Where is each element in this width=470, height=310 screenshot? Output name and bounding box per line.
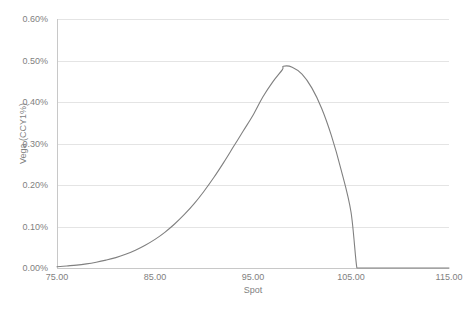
- x-tick-label: 95.00: [242, 272, 265, 283]
- x-tick-label: 105.00: [337, 272, 365, 283]
- y-tick-label: 0.00%: [22, 263, 48, 273]
- x-axis-tick-labels: 75.00 85.00 95.00 105.00 115.00: [57, 272, 449, 286]
- series-vega-line: [57, 19, 449, 268]
- vega-spot-chart: 0.00% 0.10% 0.20% 0.30% 0.40% 0.50% 0.60…: [0, 0, 470, 310]
- x-tick-label: 85.00: [144, 272, 167, 283]
- y-axis-title: Vega (CCY1%): [18, 79, 29, 189]
- y-tick-label: 0.50%: [22, 56, 48, 66]
- x-tick-label: 75.00: [46, 272, 69, 283]
- y-tick-label: 0.10%: [22, 222, 48, 232]
- x-axis-title: Spot: [57, 285, 449, 296]
- y-tick-label: 0.60%: [22, 14, 48, 24]
- plot-area: [57, 19, 449, 268]
- x-tick-label: 115.00: [436, 272, 463, 283]
